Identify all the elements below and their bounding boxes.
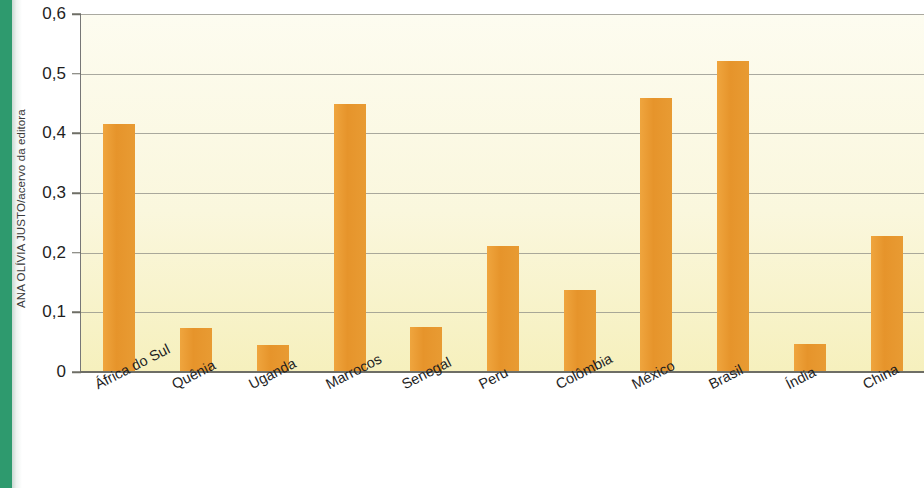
- x-axis-tick-label: Quênia: [169, 357, 218, 392]
- x-axis-tick-label: Uganda: [246, 355, 299, 392]
- x-axis-tick-label: Marrocos: [323, 351, 384, 393]
- x-axis-tick-label: China: [860, 361, 901, 392]
- x-axis-labels: África do SulQuêniaUgandaMarrocosSenegal…: [0, 0, 924, 488]
- bar-chart: 0,60,50,40,30,20,10 África do SulQuêniaU…: [0, 0, 924, 488]
- x-axis-tick-label: Senegal: [399, 354, 454, 392]
- x-axis-tick-label: México: [629, 357, 677, 392]
- x-axis-tick-label: Brasil: [706, 362, 746, 393]
- x-axis-tick-label: África do Sul: [92, 341, 173, 393]
- x-axis-tick-label: Peru: [476, 364, 511, 392]
- x-axis-tick-label: Colômbia: [553, 350, 615, 392]
- x-axis-tick-label: Índia: [783, 364, 818, 393]
